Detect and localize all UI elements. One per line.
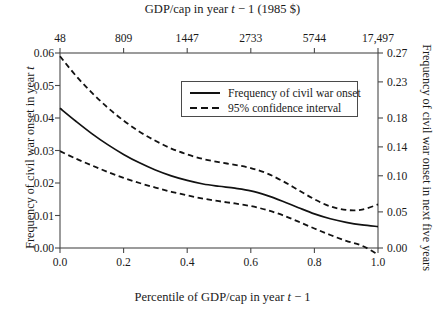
- legend-label-1: 95% confidence interval: [228, 102, 341, 115]
- legend-swatch-dashed-icon: [190, 103, 220, 113]
- y2-tick-label-0: 0.00: [387, 242, 407, 255]
- series-line-0: [60, 108, 378, 226]
- legend-item-1: 95% confidence interval: [190, 100, 341, 116]
- legend-label-0: Frequency of civil war onset: [228, 87, 361, 100]
- y-tick-label-5: 0.05: [18, 79, 54, 92]
- y2-tick-label-5: 0.23: [387, 75, 407, 88]
- y-tick-label-1: 0.01: [18, 209, 54, 222]
- plot-area: [0, 0, 445, 327]
- legend-swatch-solid-icon: [190, 88, 220, 98]
- y2-tick-label-1: 0.05: [387, 205, 407, 218]
- top-axis-tick-label-1: 809: [115, 32, 132, 45]
- top-axis-tick-label-3: 2733: [239, 32, 262, 45]
- y-tick-label-4: 0.04: [18, 112, 54, 125]
- x-tick-label-5: 1.0: [371, 256, 386, 269]
- chart-legend: Frequency of civil war onset 95% confide…: [181, 81, 358, 117]
- top-axis-tick-label-0: 48: [54, 32, 66, 45]
- legend-item-0: Frequency of civil war onset: [190, 85, 361, 101]
- top-axis-tick-label-4: 5744: [303, 32, 326, 45]
- series-line-2: [60, 151, 378, 254]
- y-tick-label-6: 0.06: [18, 47, 54, 60]
- y2-tick-label-3: 0.14: [387, 140, 407, 153]
- y2-tick-label-2: 0.10: [387, 169, 407, 182]
- x-tick-label-2: 0.4: [180, 256, 195, 269]
- y2-tick-label-6: 0.27: [387, 47, 407, 60]
- y-tick-label-0: 0.00: [18, 242, 54, 255]
- series-line-1: [60, 56, 378, 210]
- x-tick-label-4: 0.8: [307, 256, 322, 269]
- x-tick-label-3: 0.6: [244, 256, 259, 269]
- top-axis-tick-label-2: 1447: [176, 32, 199, 45]
- y2-tick-label-4: 0.18: [387, 112, 407, 125]
- chart-figure: GDP/cap in year t − 1 (1985 $) Percentil…: [0, 0, 445, 327]
- y-tick-label-2: 0.02: [18, 177, 54, 190]
- x-tick-label-1: 0.2: [116, 256, 131, 269]
- y-tick-label-3: 0.03: [18, 144, 54, 157]
- x-tick-label-0: 0.0: [53, 256, 68, 269]
- top-axis-tick-label-5: 17,497: [362, 32, 394, 45]
